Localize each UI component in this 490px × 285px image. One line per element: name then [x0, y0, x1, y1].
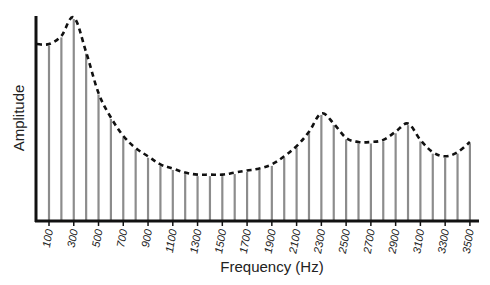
bar-series: [49, 19, 470, 221]
tick-label-3100: 3100: [410, 227, 426, 254]
tick-label-2100: 2100: [286, 227, 302, 255]
tick-label-2900: 2900: [385, 227, 401, 255]
tick-label-1900: 1900: [262, 227, 278, 254]
tick-label-700: 700: [114, 227, 129, 248]
tick-label-2300: 2300: [311, 227, 327, 255]
dashed-envelope-line: [37, 17, 470, 175]
spectrum-chart: 1003005007009001100130015001700190021002…: [0, 0, 490, 285]
tick-label-1100: 1100: [163, 227, 179, 253]
tick-label-1500: 1500: [212, 227, 228, 254]
tick-label-3300: 3300: [435, 227, 451, 254]
x-axis-tick-labels: 1003005007009001100130015001700190021002…: [40, 227, 476, 255]
tick-label-3500: 3500: [460, 227, 476, 254]
tick-label-100: 100: [40, 227, 55, 248]
tick-label-2500: 2500: [336, 227, 352, 255]
tick-label-2700: 2700: [361, 227, 377, 255]
tick-label-1300: 1300: [187, 227, 203, 254]
tick-label-1700: 1700: [237, 227, 253, 254]
x-axis-title: Frequency (Hz): [220, 258, 323, 275]
tick-label-500: 500: [89, 227, 104, 248]
y-axis-title: Amplitude: [10, 85, 27, 152]
tick-label-900: 900: [139, 227, 154, 248]
tick-label-300: 300: [65, 227, 80, 248]
